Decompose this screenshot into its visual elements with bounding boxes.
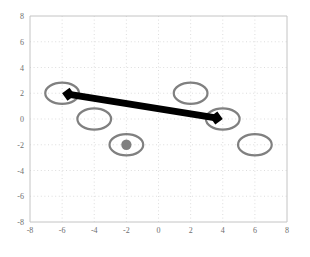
y-tick-label: 2 [20, 89, 24, 98]
data-center-dot [121, 140, 131, 150]
x-tick-label: -4 [91, 226, 98, 235]
plot-background [30, 16, 287, 222]
x-tick-label: 0 [157, 226, 161, 235]
x-tick-label: -8 [27, 226, 34, 235]
x-tick-label: 4 [221, 226, 225, 235]
y-tick-label: -4 [17, 167, 24, 176]
y-tick-label: 0 [20, 115, 24, 124]
y-axis-tick-labels: 86420-2-4-6-8 [17, 12, 24, 227]
y-tick-label: 8 [20, 12, 24, 21]
y-tick-label: -8 [17, 218, 24, 227]
y-tick-label: -6 [17, 192, 24, 201]
x-tick-label: -6 [59, 226, 66, 235]
chart-figure: -8-6-4-202468 86420-2-4-6-8 [0, 0, 310, 257]
y-tick-label: 4 [20, 64, 24, 73]
x-tick-label: 8 [285, 226, 289, 235]
y-tick-label: -2 [17, 141, 24, 150]
x-tick-label: 2 [189, 226, 193, 235]
y-tick-label: 6 [20, 38, 24, 47]
scatter-plot-canvas: -8-6-4-202468 86420-2-4-6-8 [0, 0, 310, 257]
x-tick-label: -2 [123, 226, 130, 235]
x-axis-tick-labels: -8-6-4-202468 [27, 226, 289, 235]
x-tick-label: 6 [253, 226, 257, 235]
